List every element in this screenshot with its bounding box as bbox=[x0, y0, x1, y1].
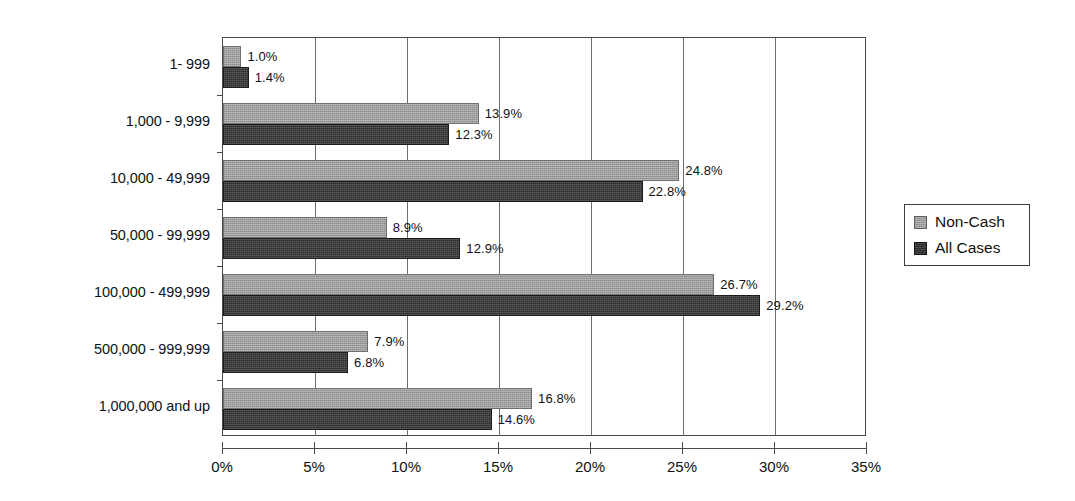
bar-group: 16.8%14.6% bbox=[223, 388, 865, 430]
x-axis-tick-label: 10% bbox=[391, 458, 421, 475]
legend-item-non-cash[interactable]: Non-Cash bbox=[914, 213, 1005, 231]
bar-group: 1.0%1.4% bbox=[223, 46, 865, 88]
category-label: 500,000 - 999,999 bbox=[10, 341, 210, 357]
bar-value-label: 29.2% bbox=[766, 295, 803, 316]
bar-value-label: 22.8% bbox=[649, 181, 686, 202]
bar-value-label: 12.9% bbox=[466, 238, 503, 259]
legend-item-all-cases[interactable]: All Cases bbox=[914, 239, 1000, 257]
x-axis-tick bbox=[590, 442, 591, 454]
bar-value-label: 6.8% bbox=[354, 352, 384, 373]
bar[interactable] bbox=[223, 388, 532, 409]
category-label: 1,000 - 9,999 bbox=[10, 113, 210, 129]
x-axis-tick bbox=[498, 442, 499, 454]
x-axis-tick bbox=[222, 442, 223, 454]
bar[interactable] bbox=[223, 160, 679, 181]
category-label: 50,000 - 99,999 bbox=[10, 227, 210, 243]
bar[interactable] bbox=[223, 238, 460, 259]
bar-group: 8.9%12.9% bbox=[223, 217, 865, 259]
bar[interactable] bbox=[223, 46, 241, 67]
bar[interactable] bbox=[223, 352, 348, 373]
category-label: 100,000 - 499,999 bbox=[10, 284, 210, 300]
x-axis-tick-label: 35% bbox=[851, 458, 881, 475]
x-axis-tick bbox=[866, 442, 867, 454]
bar[interactable] bbox=[223, 181, 643, 202]
bar-group: 24.8%22.8% bbox=[223, 160, 865, 202]
bar[interactable] bbox=[223, 274, 714, 295]
x-axis-tick bbox=[682, 442, 683, 454]
category-label: 1,000,000 and up bbox=[10, 398, 210, 414]
bar[interactable] bbox=[223, 331, 368, 352]
bar-value-label: 24.8% bbox=[685, 160, 722, 181]
plot-area: 1.0%1.4%13.9%12.3%24.8%22.8%8.9%12.9%26.… bbox=[222, 37, 866, 436]
category-axis-tick bbox=[217, 380, 223, 381]
category-label: 1- 999 bbox=[10, 56, 210, 72]
bar-value-label: 13.9% bbox=[485, 103, 522, 124]
x-axis-tick-label: 20% bbox=[575, 458, 605, 475]
bar-value-label: 7.9% bbox=[374, 331, 404, 352]
bar-value-label: 26.7% bbox=[720, 274, 757, 295]
bar-value-label: 14.6% bbox=[498, 409, 535, 430]
x-axis-tick-label: 30% bbox=[759, 458, 789, 475]
category-axis-tick bbox=[217, 95, 223, 96]
legend-label-all-cases: All Cases bbox=[935, 239, 1000, 257]
bar-value-label: 1.4% bbox=[255, 67, 285, 88]
legend-swatch-all-cases-icon bbox=[914, 242, 927, 255]
x-axis-tick-label: 25% bbox=[667, 458, 697, 475]
x-axis-tick bbox=[774, 442, 775, 454]
bar-group: 7.9%6.8% bbox=[223, 331, 865, 373]
bar[interactable] bbox=[223, 295, 760, 316]
bar[interactable] bbox=[223, 217, 387, 238]
category-axis-tick bbox=[217, 152, 223, 153]
bar-group: 26.7%29.2% bbox=[223, 274, 865, 316]
legend-swatch-non-cash-icon bbox=[914, 216, 927, 229]
category-axis-tick bbox=[217, 266, 223, 267]
bar[interactable] bbox=[223, 67, 249, 88]
bar-value-label: 12.3% bbox=[455, 124, 492, 145]
legend: Non-Cash All Cases bbox=[904, 204, 1030, 266]
x-axis-tick bbox=[314, 442, 315, 454]
category-label: 10,000 - 49,999 bbox=[10, 170, 210, 186]
x-axis-tick-label: 0% bbox=[211, 458, 233, 475]
x-axis-tick-label: 5% bbox=[303, 458, 325, 475]
category-axis-tick bbox=[217, 209, 223, 210]
bar-value-label: 1.0% bbox=[247, 46, 277, 67]
x-axis-tick bbox=[406, 442, 407, 454]
bar[interactable] bbox=[223, 103, 479, 124]
bar-value-label: 8.9% bbox=[393, 217, 423, 238]
category-axis-tick bbox=[217, 323, 223, 324]
bar-value-label: 16.8% bbox=[538, 388, 575, 409]
bar-group: 13.9%12.3% bbox=[223, 103, 865, 145]
x-axis-tick-label: 15% bbox=[483, 458, 513, 475]
bar-chart: 1- 9991,000 - 9,99910,000 - 49,99950,000… bbox=[0, 0, 1075, 501]
legend-label-non-cash: Non-Cash bbox=[935, 213, 1005, 231]
bar[interactable] bbox=[223, 409, 492, 430]
bar[interactable] bbox=[223, 124, 449, 145]
x-axis-line bbox=[222, 448, 866, 449]
